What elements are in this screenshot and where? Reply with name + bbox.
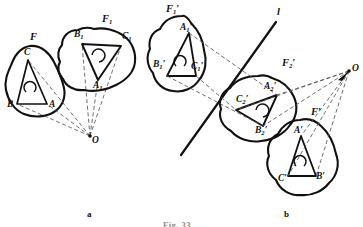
point-label-B1-sub: 1 xyxy=(80,33,83,40)
panel-letter-a: a xyxy=(87,210,92,219)
shape-label-F-prime-mark: ′ xyxy=(318,106,321,117)
point-label-C1-sub: 1 xyxy=(128,35,131,42)
shape-label-F1: F1 xyxy=(102,14,112,26)
point-label-B2-prime-mark: ′ xyxy=(265,125,268,135)
line-label-l: l xyxy=(277,7,280,18)
point-label-A1: A1 xyxy=(93,81,103,92)
shape-label-F-prime: F′ xyxy=(311,107,321,118)
figure-root: F F1 A B C A1 B1 C1 O F1′ F2′ F′ l A1′ B… xyxy=(0,0,363,227)
point-label-A-prime-mark: ′ xyxy=(300,125,303,135)
point-label-B1-prime-mark: ′ xyxy=(163,59,166,69)
point-label-O-b: O xyxy=(352,64,359,74)
shape-label-F1-prime-mark: ′ xyxy=(176,3,179,14)
panel-letter-b: b xyxy=(284,210,289,219)
point-label-A1-sub: 1 xyxy=(99,84,102,91)
figure-drawing xyxy=(0,0,363,227)
point-label-B1: B1 xyxy=(74,30,84,41)
blob-F1p-outline xyxy=(148,16,206,92)
correspondence-lines-b xyxy=(167,33,277,126)
center-point-O-b xyxy=(347,69,351,73)
point-label-A1-prime-mark: ′ xyxy=(190,22,193,32)
shape-label-F1-prime: F1′ xyxy=(166,4,179,16)
point-label-C1: C1 xyxy=(122,32,132,43)
angle-arc-ApBpCp xyxy=(294,156,306,166)
projection-rays-a xyxy=(17,60,90,136)
point-label-A1-prime: A1′ xyxy=(180,23,192,34)
blob-F-outline xyxy=(5,46,64,117)
point-label-A-prime: A′ xyxy=(294,126,303,136)
angle-arc-ABC xyxy=(24,82,36,92)
shape-label-F1-sub: 1 xyxy=(109,18,112,25)
angle-arc-A2pB2pC2p xyxy=(256,104,269,117)
point-label-C-prime-mark: ′ xyxy=(284,173,287,183)
point-label-A: A xyxy=(49,100,55,110)
shape-label-F: F xyxy=(30,32,37,43)
point-label-B-prime: B′ xyxy=(316,172,325,182)
point-label-B1-prime: B1′ xyxy=(153,60,165,71)
point-label-A2-prime: A2′ xyxy=(264,82,276,93)
point-label-B2-prime: B2′ xyxy=(255,126,267,137)
point-label-O-a: O xyxy=(92,136,99,146)
point-label-B: B xyxy=(7,100,13,110)
point-label-C-prime: C′ xyxy=(278,174,287,184)
point-label-C: C xyxy=(24,48,30,58)
point-label-C1-prime: C1′ xyxy=(191,62,203,73)
panel-a-group xyxy=(5,28,135,138)
point-label-A2-prime-mark: ′ xyxy=(274,81,277,91)
point-label-C2-prime: C2′ xyxy=(236,95,248,106)
angle-arc-A1B1C1 xyxy=(92,49,105,62)
point-label-C2-prime-mark: ′ xyxy=(246,94,249,104)
figure-caption: Fig. 33 xyxy=(163,221,191,227)
shape-label-F2-prime-mark: ′ xyxy=(292,57,295,68)
point-label-B-prime-mark: ′ xyxy=(322,171,325,181)
point-label-C1-prime-mark: ′ xyxy=(201,61,204,71)
shape-label-F2-prime: F2′ xyxy=(282,58,295,70)
